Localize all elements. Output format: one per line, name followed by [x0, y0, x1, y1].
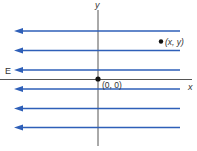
origin-dot: [95, 76, 100, 81]
point-label: (x, y): [165, 37, 184, 47]
electric-field-diagram: y x E (0, 0) (x, y): [0, 0, 197, 151]
y-axis-label: y: [94, 0, 100, 10]
field-label-e: E: [5, 66, 11, 76]
field-line-arrow: [14, 86, 180, 92]
field-line-arrow: [14, 48, 180, 54]
arrowhead-left-icon: [14, 125, 23, 131]
origin-label: (0, 0): [102, 80, 122, 90]
arrowhead-left-icon: [14, 86, 23, 92]
x-axis-label: x: [187, 82, 193, 92]
point-dot: [159, 39, 163, 43]
arrowhead-left-icon: [14, 28, 23, 34]
field-line-arrow: [14, 106, 180, 112]
field-line-arrow: [14, 125, 180, 131]
field-line-arrow: [14, 28, 180, 34]
arrowhead-left-icon: [14, 67, 23, 73]
arrowhead-left-icon: [14, 106, 23, 112]
arrowhead-left-icon: [14, 48, 23, 54]
field-line-arrow: [14, 67, 180, 73]
